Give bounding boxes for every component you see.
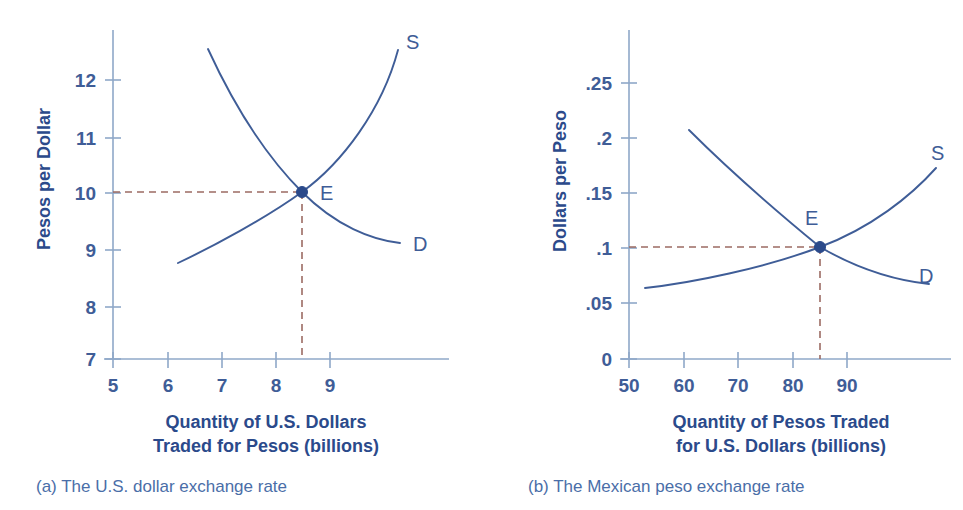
- supply-curve-b: [645, 168, 936, 288]
- x-axis-title-line2-a: Traded for Pesos (billions): [153, 436, 379, 456]
- x-tick-label: 8: [271, 375, 282, 396]
- equilibrium-point-a: [297, 187, 308, 198]
- y-tick-label: .1: [596, 238, 612, 259]
- panel-b-plot: .25 .2 .15 .1 .05 0 50 60 70 80 90 Dolla…: [481, 0, 963, 510]
- exchange-rate-figure: 12 11 10 9 8 7 5 6 7 8 9 Pesos per Dolla…: [0, 0, 963, 510]
- supply-curve-a: [178, 50, 398, 263]
- panel-a-plot: 12 11 10 9 8 7 5 6 7 8 9 Pesos per Dolla…: [0, 0, 481, 510]
- x-tick-label: 9: [325, 375, 336, 396]
- x-tick-label: 7: [217, 375, 228, 396]
- y-tick-label: .25: [586, 73, 613, 94]
- y-tick-label: 10: [75, 183, 96, 204]
- x-ticks-a: [113, 352, 330, 368]
- x-axis-title-line1-b: Quantity of Pesos Traded: [672, 412, 889, 432]
- demand-curve-label-b: D: [919, 265, 933, 287]
- y-tick-label: 12: [75, 70, 96, 91]
- panel-caption-b: (b) The Mexican peso exchange rate: [528, 477, 805, 496]
- y-tick-label: .15: [586, 183, 613, 204]
- demand-curve-label-a: D: [413, 233, 427, 255]
- supply-curve-label-a: S: [406, 31, 419, 53]
- y-tick-label: 11: [76, 128, 97, 149]
- x-tick-label: 6: [163, 375, 174, 396]
- panel-mexican-peso-exchange-rate: .25 .2 .15 .1 .05 0 50 60 70 80 90 Dolla…: [481, 0, 962, 510]
- y-tick-label: 7: [85, 349, 96, 370]
- equilibrium-label-b: E: [805, 207, 818, 229]
- equilibrium-point-b: [815, 242, 826, 253]
- x-tick-label: 80: [782, 375, 803, 396]
- x-tick-label: 60: [673, 375, 694, 396]
- supply-curve-label-b: S: [931, 142, 944, 164]
- y-axis-title-b: Dollars per Peso: [550, 110, 570, 252]
- y-tick-label: .2: [596, 128, 612, 149]
- y-axis-title-a: Pesos per Dollar: [34, 108, 54, 250]
- x-tick-label: 50: [618, 375, 639, 396]
- x-axis-title-line2-b: for U.S. Dollars (billions): [676, 436, 886, 456]
- demand-curve-a: [208, 49, 400, 243]
- y-tick-label: .05: [586, 293, 613, 314]
- panel-us-dollar-exchange-rate: 12 11 10 9 8 7 5 6 7 8 9 Pesos per Dolla…: [0, 0, 481, 510]
- x-tick-label: 70: [727, 375, 748, 396]
- x-tick-label: 5: [108, 375, 119, 396]
- equilibrium-label-a: E: [320, 182, 333, 204]
- y-tick-label: 8: [85, 297, 96, 318]
- panel-caption-a: (a) The U.S. dollar exchange rate: [36, 477, 287, 496]
- x-ticks-b: [629, 352, 847, 368]
- y-tick-label: 0: [601, 349, 612, 370]
- x-axis-title-line1-a: Quantity of U.S. Dollars: [165, 412, 366, 432]
- x-tick-label: 90: [836, 375, 857, 396]
- y-tick-label: 9: [85, 240, 96, 261]
